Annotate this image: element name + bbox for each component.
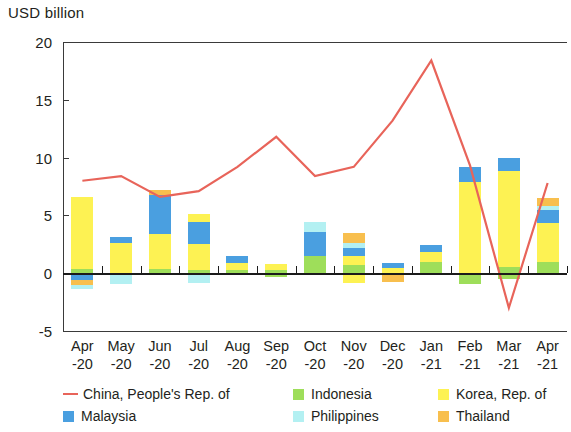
legend-item[interactable]: Malaysia <box>63 408 136 424</box>
legend-line-icon <box>63 393 78 395</box>
bar-segment <box>304 256 326 273</box>
bar-segment-negative <box>71 285 93 289</box>
bar-segment <box>420 252 442 261</box>
legend-item-label: Philippines <box>311 408 379 424</box>
x-axis-category-label: Jan-21 <box>412 337 451 373</box>
bar-segment <box>188 214 210 222</box>
bar-stack[interactable] <box>498 42 520 331</box>
chart-legend: China, People's Rep. ofIndonesiaKorea, R… <box>63 386 571 432</box>
legend-swatch-icon <box>438 389 449 400</box>
bar-segment <box>226 263 248 270</box>
bar-segment <box>537 262 559 274</box>
x-label-year: -21 <box>489 355 528 373</box>
x-label-year: -20 <box>334 355 373 373</box>
bar-stack[interactable] <box>188 42 210 331</box>
bar-stack[interactable] <box>265 42 287 331</box>
x-label-month: Feb <box>451 337 490 355</box>
x-label-year: -21 <box>412 355 451 373</box>
bar-stack[interactable] <box>304 42 326 331</box>
x-label-month: Apr <box>63 337 102 355</box>
legend-swatch-icon <box>293 389 304 400</box>
x-label-month: Nov <box>334 337 373 355</box>
y-axis-tick-label: 0 <box>0 265 52 282</box>
bar-segment <box>226 256 248 263</box>
legend-item[interactable]: Thailand <box>438 408 510 424</box>
bar-segment <box>537 210 559 224</box>
bar-segment <box>188 244 210 269</box>
bar-segment <box>343 243 365 248</box>
bar-stack[interactable] <box>110 42 132 331</box>
plot-area <box>63 42 567 331</box>
x-label-year: -20 <box>373 355 412 373</box>
bar-stack[interactable] <box>382 42 404 331</box>
bar-segment <box>498 171 520 267</box>
bar-stack[interactable] <box>537 42 559 331</box>
legend-item[interactable]: China, People's Rep. of <box>63 386 230 402</box>
x-label-year: -20 <box>63 355 102 373</box>
x-axis-category-label: Oct-20 <box>296 337 335 373</box>
x-label-month: Dec <box>373 337 412 355</box>
x-axis-category-label: Apr-21 <box>528 337 567 373</box>
bar-segment <box>420 262 442 274</box>
bar-stack[interactable] <box>420 42 442 331</box>
y-axis-tick-label: 5 <box>0 207 52 224</box>
x-axis-category-label: May-20 <box>102 337 141 373</box>
legend-item-label: China, People's Rep. of <box>83 386 230 402</box>
x-label-year: -21 <box>528 355 567 373</box>
bar-segment <box>343 233 365 243</box>
bar-segment <box>459 182 481 273</box>
x-label-month: Sep <box>257 337 296 355</box>
x-axis-tick-mark <box>567 266 568 273</box>
bar-segment <box>304 232 326 256</box>
y-axis-tick-label: 10 <box>0 149 52 166</box>
y-axis-tick-label: 20 <box>0 34 52 51</box>
legend-item-label: Thailand <box>456 408 510 424</box>
bar-segment <box>382 263 404 268</box>
y-axis-title: USD billion <box>8 4 84 21</box>
bar-segment <box>110 237 132 243</box>
bar-stack[interactable] <box>71 42 93 331</box>
y-axis-tick-label: 15 <box>0 91 52 108</box>
x-axis-category-label: Dec-20 <box>373 337 412 373</box>
x-label-year: -20 <box>296 355 335 373</box>
x-label-year: -20 <box>257 355 296 373</box>
bar-segment <box>343 265 365 273</box>
x-label-year: -20 <box>179 355 218 373</box>
bar-segment <box>149 190 171 195</box>
legend-item[interactable]: Korea, Rep. of <box>438 386 546 402</box>
y-axis-tick-mark <box>63 331 69 332</box>
x-axis-category-label: Feb-21 <box>451 337 490 373</box>
legend-swatch-icon <box>63 411 74 422</box>
bar-segment <box>498 158 520 172</box>
bar-segment <box>149 195 171 234</box>
legend-item-label: Korea, Rep. of <box>456 386 546 402</box>
bar-stack[interactable] <box>343 42 365 331</box>
x-axis-category-label: Apr-20 <box>63 337 102 373</box>
bar-segment <box>343 256 365 265</box>
bar-stack[interactable] <box>459 42 481 331</box>
x-label-month: May <box>102 337 141 355</box>
x-axis-category-label: Aug-20 <box>218 337 257 373</box>
bar-segment <box>265 264 287 270</box>
x-axis-category-label: Mar-21 <box>489 337 528 373</box>
bar-segment <box>537 206 559 209</box>
x-label-month: Jun <box>141 337 180 355</box>
legend-item[interactable]: Philippines <box>293 408 379 424</box>
x-label-month: Oct <box>296 337 335 355</box>
x-axis-category-label: Sep-20 <box>257 337 296 373</box>
x-label-year: -20 <box>141 355 180 373</box>
x-label-month: Apr <box>528 337 567 355</box>
bar-segment <box>188 222 210 244</box>
x-label-month: Jul <box>179 337 218 355</box>
bar-stack[interactable] <box>149 42 171 331</box>
x-label-month: Mar <box>489 337 528 355</box>
bar-segment <box>149 234 171 269</box>
legend-item[interactable]: Indonesia <box>293 386 372 402</box>
plot-frame-bottom-border <box>63 331 567 332</box>
x-label-month: Jan <box>412 337 451 355</box>
x-label-year: -20 <box>218 355 257 373</box>
bar-stack[interactable] <box>226 42 248 331</box>
y-axis-tick-label: -5 <box>0 323 52 340</box>
bar-segment <box>537 223 559 261</box>
x-label-year: -20 <box>102 355 141 373</box>
